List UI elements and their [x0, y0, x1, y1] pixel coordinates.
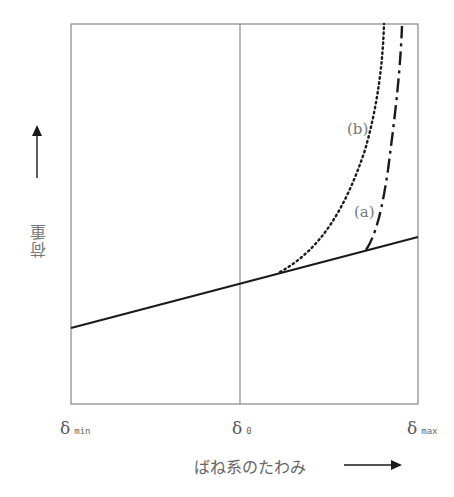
- delta-symbol: δ: [60, 418, 70, 438]
- base-load-line: [71, 237, 418, 328]
- curve-b-dotted: [280, 24, 384, 272]
- x-axis-title: ばね系のたわみ: [194, 454, 306, 478]
- delta-symbol: δ: [232, 418, 242, 438]
- delta-subscript: min: [74, 426, 90, 436]
- delta-symbol: δ: [407, 418, 417, 438]
- x-axis-arrow-icon: [391, 460, 402, 470]
- curve-b-label: (b): [347, 120, 368, 138]
- curve-a-label: (a): [354, 203, 375, 221]
- tick-label-delta-max: δmax: [407, 418, 438, 438]
- y-axis-title: 荷重: [28, 222, 52, 258]
- tick-label-delta-0: δ0: [232, 418, 252, 438]
- delta-subscript: max: [421, 426, 437, 436]
- tick-label-delta-min: δmin: [60, 418, 91, 438]
- y-axis-arrow-icon: [32, 125, 42, 136]
- delta-subscript: 0: [246, 426, 251, 436]
